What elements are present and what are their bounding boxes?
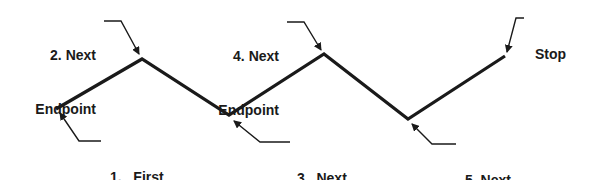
label-stop-line1: Stop — [535, 45, 566, 63]
zigzag-polyline — [56, 54, 505, 119]
label-first-endpoint-line1: 1. First — [110, 168, 171, 180]
label-first-endpoint: 1. First Endpoint — [110, 132, 171, 180]
label-next-endpoint-4-line1: 4. Next — [218, 47, 279, 65]
label-stop: Stop — [535, 9, 566, 81]
leader-arrow-stop — [507, 18, 524, 52]
label-next-endpoint-2: 2. Next Endpoint — [35, 10, 96, 136]
label-next-endpoint-5-line1: 5. Next — [465, 171, 526, 180]
label-next-endpoint-4: 4. Next Endpoint — [218, 11, 279, 137]
leader-arrow-5 — [412, 124, 456, 144]
label-next-endpoint-2-line2: Endpoint — [35, 100, 96, 118]
label-next-endpoint-2-line1: 2. Next — [35, 46, 96, 64]
label-next-endpoint-3: 3. Next Endpoint — [297, 133, 358, 180]
leader-arrow-4 — [287, 22, 321, 50]
label-next-endpoint-3-line1: 3. Next — [297, 169, 358, 180]
label-next-endpoint-4-line2: Endpoint — [218, 101, 279, 119]
label-next-endpoint-5: 5. Next Endpoint — [465, 135, 526, 180]
leader-arrow-2 — [104, 21, 139, 54]
